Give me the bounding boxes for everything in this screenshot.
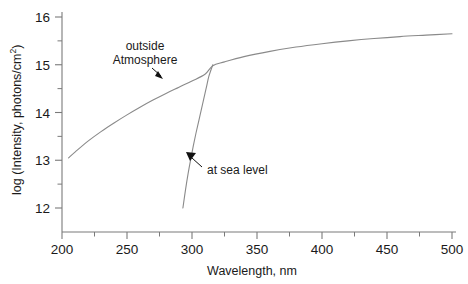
x-tick-label-400: 400 xyxy=(311,242,334,257)
x-tick-label-250: 250 xyxy=(116,242,139,257)
y-axis-title-suffix: ) xyxy=(10,45,24,49)
chart-figure: 12 13 14 15 16 log (Intensity, photons/c… xyxy=(0,0,468,284)
x-tick-label-200: 200 xyxy=(51,242,74,257)
annotation-outside-line2: Atmosphere xyxy=(113,53,178,67)
chart-svg: 12 13 14 15 16 log (Intensity, photons/c… xyxy=(0,0,468,284)
y-axis-title-prefix: log (Intensity, photons/cm xyxy=(10,53,24,195)
x-axis-title: Wavelength, nm xyxy=(207,264,297,278)
annotation-sealevel-label: at sea level xyxy=(207,163,268,177)
svg-text:log (Intensity, photons/cm2): log (Intensity, photons/cm2) xyxy=(8,45,24,195)
y-tick-label-15: 15 xyxy=(35,58,50,73)
x-tick-label-500: 500 xyxy=(441,242,464,257)
y-tick-label-13: 13 xyxy=(35,153,50,168)
y-axis-title: log (Intensity, photons/cm2) xyxy=(8,45,24,195)
y-tick-label-12: 12 xyxy=(35,201,50,216)
y-tick-label-14: 14 xyxy=(35,106,51,121)
y-tick-label-16: 16 xyxy=(35,10,50,25)
x-tick-label-300: 300 xyxy=(181,242,204,257)
annotation-outside-line1: outside xyxy=(126,39,165,53)
x-tick-label-450: 450 xyxy=(376,242,399,257)
x-tick-label-350: 350 xyxy=(246,242,269,257)
